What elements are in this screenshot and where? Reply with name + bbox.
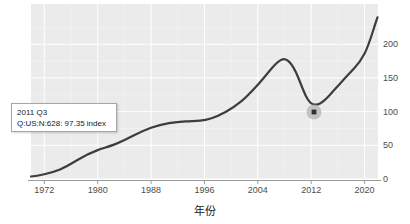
y-tick-label-150: 150 bbox=[383, 73, 398, 83]
x-tick-label-1972: 1972 bbox=[34, 185, 54, 195]
y-tick-label-0: 0 bbox=[383, 174, 388, 184]
chart-container: 0 50 100 150 200 1972 1980 1988 1996 200… bbox=[0, 0, 410, 224]
x-tick-label-2004: 2004 bbox=[248, 185, 268, 195]
x-tick-label-1980: 1980 bbox=[88, 185, 108, 195]
tooltip-value-label: Q:US:N:628: 97.35 index bbox=[17, 118, 111, 129]
x-tick-label-1988: 1988 bbox=[141, 185, 161, 195]
x-tick-label-2020: 2020 bbox=[355, 185, 375, 195]
highlight-point-marker[interactable] bbox=[312, 110, 317, 115]
y-tick-label-50: 50 bbox=[383, 140, 393, 150]
x-tick-label-1996: 1996 bbox=[194, 185, 214, 195]
gridlines-major bbox=[31, 4, 378, 179]
x-tick-label-2012: 2012 bbox=[301, 185, 321, 195]
y-tick-label-200: 200 bbox=[383, 39, 398, 49]
tooltip-period-label: 2011 Q3 bbox=[17, 107, 111, 118]
x-axis-title: 年份 bbox=[0, 202, 410, 218]
data-point-tooltip: 2011 Q3 Q:US:N:628: 97.35 index bbox=[11, 103, 117, 132]
y-tick-label-100: 100 bbox=[383, 107, 398, 117]
x-axis-ticks bbox=[44, 181, 364, 185]
